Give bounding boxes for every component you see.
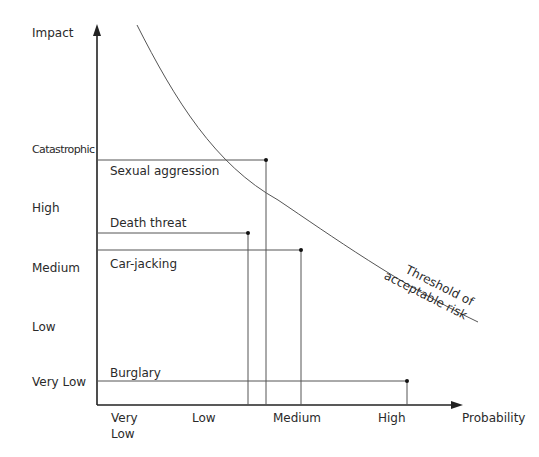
x-axis-title: Probability [462,411,525,425]
x-tick-very-low-line1: Very [111,411,138,425]
x-tick-medium: Medium [273,411,321,425]
y-tick-very-low: Very Low [32,375,86,389]
label-car-jacking: Car-jacking [110,257,177,271]
x-axis-arrow-icon [451,401,463,409]
x-tick-high: High [378,411,406,425]
label-death-threat: Death threat [110,216,187,230]
y-axis-title: Impact [32,26,74,40]
x-tick-low: Low [192,411,216,425]
y-tick-high: High [32,201,60,215]
y-tick-medium: Medium [32,261,80,275]
label-burglary: Burglary [110,366,161,380]
y-tick-catastrophic: Catastrophic [32,143,94,157]
label-sexual-aggression: Sexual aggression [110,164,219,178]
risk-burglary [97,379,409,405]
y-tick-low: Low [32,320,56,334]
y-axis-arrow-icon [93,24,101,36]
x-tick-very-low-line2: Low [111,427,135,441]
